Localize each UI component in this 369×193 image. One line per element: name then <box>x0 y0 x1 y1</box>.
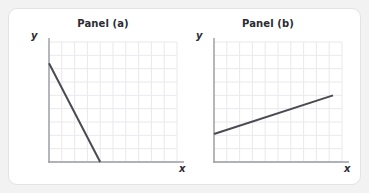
panel-b-plot-area <box>206 38 349 171</box>
panel-a-plot-area <box>41 38 184 171</box>
panel-b-series-0 <box>214 95 333 134</box>
panel-a: Panel (a) y x <box>19 9 187 184</box>
panel-b-y-axis-label: y <box>196 31 203 41</box>
figure-card: Panel (a) y x Panel (b) y x <box>8 8 361 185</box>
panel-b-gridlines <box>214 42 342 162</box>
panel-a-chart-svg <box>41 38 184 171</box>
panel-b-title: Panel (b) <box>184 18 352 29</box>
panel-a-title: Panel (a) <box>19 18 187 29</box>
panel-b-chart-svg <box>206 38 349 171</box>
panel-a-y-axis-label: y <box>31 31 38 41</box>
panel-b: Panel (b) y x <box>184 9 352 184</box>
